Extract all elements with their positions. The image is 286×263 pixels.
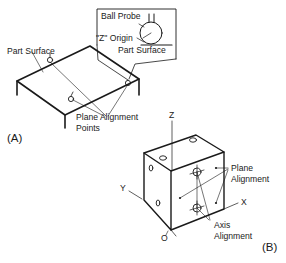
z-origin-label: "Z" Origin [96, 34, 133, 43]
axis-alignment-label-1: Axis [214, 221, 230, 230]
plane-alignment-points-label-1: Plane Alignment [76, 113, 138, 122]
diagram-canvas [0, 0, 286, 263]
origin-label: O [161, 234, 168, 243]
plane-alignment-label-1: Plane [231, 164, 253, 173]
axis-alignment-label-2: Alignment [214, 232, 252, 241]
figure-b-label: (B) [262, 242, 277, 254]
plane-alignment-points-label-2: Points [76, 124, 100, 133]
ball-probe-label: Ball Probe [101, 12, 141, 21]
part-surface-label: Part Surface [7, 47, 55, 56]
cube-drawing [129, 121, 238, 236]
figure-a-label: (A) [7, 133, 22, 145]
inset-part-surface-label: Part Surface [118, 46, 166, 55]
plane-alignment-label-2: Alignment [231, 175, 269, 184]
axis-x-label: X [241, 198, 247, 207]
axis-y-label: Y [120, 184, 126, 193]
axis-z-label: Z [169, 111, 174, 120]
